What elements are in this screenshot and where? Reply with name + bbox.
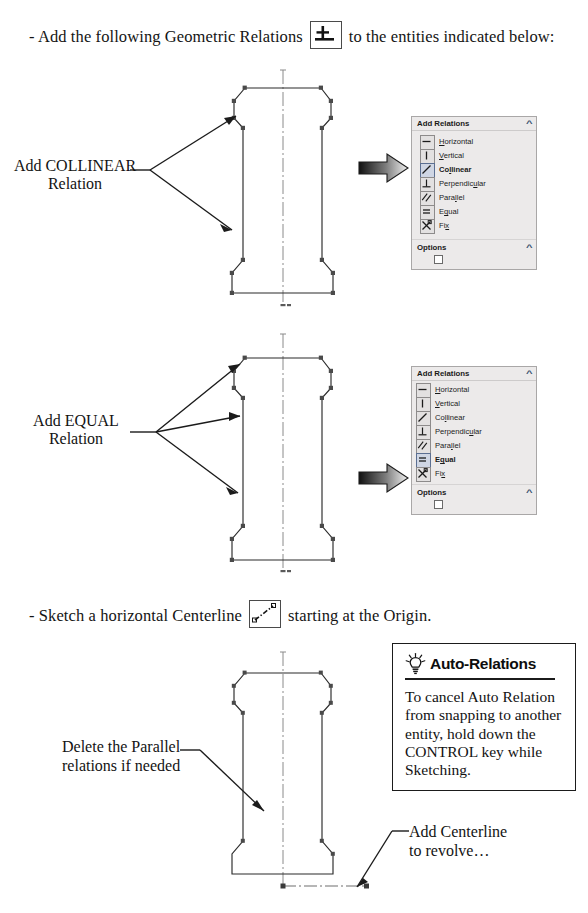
relation-item-perpendicular[interactable]: Perpendicular [420,177,532,191]
tip-divider [405,678,555,680]
options-header: Options ^ [412,484,536,499]
relations-list: HorizontalVerticalCollinearPerpendicular… [412,381,536,484]
tutorial-page: - Add the following Geometric Relationst… [0,0,588,913]
callout-collinear: Add COLLINEAR Relation [12,157,138,193]
options-title: Options [417,488,446,497]
leader-add-centerline [352,825,414,893]
pointer-arrow-equal [358,462,410,494]
chevron-up-icon[interactable]: ^ [526,244,533,252]
relation-label: Horizontal [439,138,473,146]
instruction-text-before: - Sketch a horizontal Centerline [29,606,242,625]
relation-item-vertical[interactable]: Vertical [416,397,534,411]
add-relations-panel-equal[interactable]: Add Relations ^ HorizontalVerticalCollin… [411,366,537,515]
instruction-text-before: - Add the following Geometric Relations [29,27,303,46]
options-header: Options ^ [412,239,536,254]
collinear-relation-icon[interactable] [420,163,435,178]
callout-equal: Add EQUAL Relation [12,412,140,448]
relation-item-collinear[interactable]: Collinear [416,411,534,425]
leader-equal [128,360,250,500]
equal-relation-icon[interactable] [416,453,431,468]
perpendicular-relation-icon[interactable] [416,425,431,440]
vertical-relation-icon[interactable] [420,149,435,164]
horizontal-relation-icon[interactable] [420,135,435,150]
fix-relation-icon[interactable] [416,467,431,482]
parallel-relation-icon[interactable] [416,439,431,454]
vertical-relation-icon[interactable] [416,397,431,412]
options-body [412,254,536,269]
relation-item-parallel[interactable]: Parallel [416,439,534,453]
pointer-arrow-collinear [358,152,410,184]
add-geometric-relation-icon[interactable] [310,21,342,49]
perpendicular-relation-icon[interactable] [420,177,435,192]
instruction-text-after: starting at the Origin. [288,606,431,625]
panel-header: Add Relations ^ [412,117,536,131]
relation-item-horizontal[interactable]: Horizontal [420,135,532,149]
auto-relations-tip-box: Auto-Relations To cancel Auto Relation f… [392,643,576,791]
options-body [412,499,536,514]
instruction-text-after: to the entities indicated below: [349,27,555,46]
add-relations-panel-collinear[interactable]: Add Relations ^ HorizontalVerticalCollin… [411,116,537,270]
callout-add-centerline: Add Centerline to revolve… [409,823,569,861]
relation-item-parallel[interactable]: Parallel [420,191,532,205]
relation-item-equal[interactable]: Equal [416,453,534,467]
origin-mark [281,570,292,572]
chevron-up-icon[interactable]: ^ [526,489,533,497]
relation-item-fix[interactable]: Fix [416,467,534,481]
relations-list: HorizontalVerticalCollinearPerpendicular… [412,131,536,239]
relation-label: Equal [439,208,458,216]
relation-item-vertical[interactable]: Vertical [420,149,532,163]
relation-label: Collinear [435,414,465,422]
relation-item-equal[interactable]: Equal [420,205,532,219]
panel-header: Add Relations ^ [412,367,536,381]
relation-label: Parallel [439,194,464,202]
relation-item-fix[interactable]: Fix [420,219,532,233]
tip-title: Auto-Relations [430,655,536,673]
callout-delete-parallel: Delete the Parallel relations if needed [62,738,194,776]
horizontal-relation-icon[interactable] [416,383,431,398]
relation-label: Equal [435,456,456,464]
relation-label: Collinear [439,166,472,174]
relation-label: Perpendicular [439,180,486,188]
options-title: Options [417,243,446,252]
relation-item-collinear[interactable]: Collinear [420,163,532,177]
relation-label: Vertical [439,152,464,160]
equal-relation-icon[interactable] [420,205,435,220]
panel-title: Add Relations [417,369,469,378]
tip-header: Auto-Relations [405,653,565,675]
tip-body: To cancel Auto Relation from snapping to… [405,688,565,779]
relation-label: Fix [439,222,449,230]
chevron-up-icon[interactable]: ^ [526,370,533,378]
centerline-tool-icon[interactable] [249,600,281,628]
instruction-geometric-relations: - Add the following Geometric Relationst… [29,21,555,49]
leader-collinear [128,112,248,237]
relation-label: Perpendicular [435,428,482,436]
relation-label: Fix [435,470,445,478]
for-construction-checkbox[interactable] [434,255,443,264]
chevron-up-icon[interactable]: ^ [526,120,533,128]
relation-label: Horizontal [435,386,469,394]
relation-item-collinear-list[interactable]: HorizontalVerticalCollinearPerpendicular… [416,133,534,236]
instruction-centerline: - Sketch a horizontal Centerlinestarting… [29,600,431,628]
for-construction-checkbox[interactable] [434,500,443,509]
relation-label: Parallel [435,442,460,450]
collinear-relation-icon[interactable] [416,411,431,426]
relation-item-perpendicular[interactable]: Perpendicular [416,425,534,439]
lightbulb-icon [405,653,426,675]
origin-mark [281,304,292,306]
parallel-relation-icon[interactable] [420,191,435,206]
panel-title: Add Relations [417,119,469,128]
relation-item-horizontal[interactable]: Horizontal [416,383,534,397]
relation-label: Vertical [435,400,460,408]
fix-relation-icon[interactable] [420,219,435,234]
